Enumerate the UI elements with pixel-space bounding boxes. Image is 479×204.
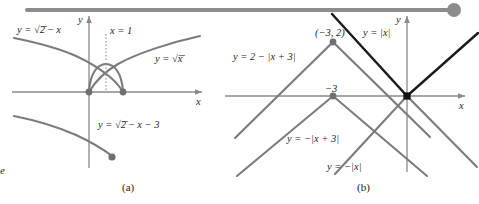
panel-a-plot: y x y = √͞2 − x x = 1 y = √͞x y = √͞2 − … bbox=[0, 0, 215, 180]
label-x-tick-minus-3: −3 bbox=[325, 83, 337, 94]
vertex-dot-b bbox=[330, 39, 337, 46]
x-intercept-dot-a bbox=[120, 89, 127, 96]
label-abs-x: y = |x| bbox=[362, 27, 390, 38]
caption-panel-b: (b) bbox=[357, 181, 370, 193]
x-axis-arrowhead-b bbox=[458, 93, 465, 99]
panel-b-plot: y x (−3, 2) y = 2 − |x + 3| y = |x| −3 y… bbox=[215, 0, 479, 180]
figure-container: e y x bbox=[0, 0, 479, 204]
origin-dot-b bbox=[403, 92, 410, 99]
panel-a: y x y = √͞2 − x x = 1 y = √͞x y = √͞2 − … bbox=[0, 0, 215, 180]
y-axis-label-a: y bbox=[77, 14, 83, 25]
x-axis-label-b: x bbox=[458, 100, 464, 111]
y-axis-label-b: y bbox=[395, 14, 401, 25]
label-vertex-coordinate: (−3, 2) bbox=[315, 27, 345, 39]
panel-b: y x (−3, 2) y = 2 − |x + 3| y = |x| −3 y… bbox=[215, 0, 479, 180]
label-sqrt-2-minus-x-minus-3: y = √͞2 − x − 3 bbox=[97, 119, 160, 130]
y-axis-arrowhead-a bbox=[86, 16, 92, 23]
origin-dot-a bbox=[86, 89, 93, 96]
lower-curve-endpoint-dot-a bbox=[108, 153, 115, 160]
label-two-minus-abs: y = 2 − |x + 3| bbox=[232, 51, 296, 62]
curve-abs-x bbox=[332, 14, 478, 96]
label-neg-abs-x-plus-3: y = −|x + 3| bbox=[286, 133, 339, 144]
label-x-equals-1: x = 1 bbox=[109, 25, 132, 36]
label-sqrt-x: y = √͞x bbox=[154, 53, 186, 64]
x-axis-arrowhead-a bbox=[195, 89, 202, 95]
y-axis-arrowhead-b bbox=[404, 16, 410, 23]
caption-panel-a: (a) bbox=[122, 181, 134, 193]
x-axis-label-a: x bbox=[195, 96, 201, 107]
label-sqrt-2-minus-x: y = √͞2 − x bbox=[16, 24, 61, 35]
label-neg-abs-x: y = −|x| bbox=[326, 161, 362, 172]
